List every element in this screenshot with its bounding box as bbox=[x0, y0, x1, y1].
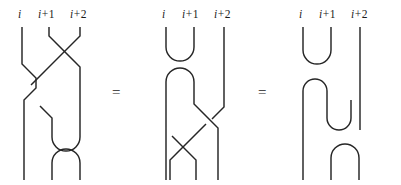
equals-sign-2: = bbox=[258, 85, 266, 100]
right-diagram bbox=[0, 0, 401, 185]
left-label-i-plus-1: i+1 bbox=[38, 9, 54, 21]
right-label-i-plus-1: i+1 bbox=[319, 9, 335, 21]
left-label-i: i bbox=[18, 9, 21, 21]
middle-label-i-plus-1: i+1 bbox=[182, 9, 198, 21]
braid-relation-figure: i i+1 i+2 i i+1 i+2 i i+1 i+2 = = bbox=[0, 0, 401, 185]
right-diagram-s-curve bbox=[303, 79, 351, 180]
middle-label-i: i bbox=[162, 9, 165, 21]
right-diagram-top-cup bbox=[303, 27, 331, 64]
left-label-i-plus-2: i+2 bbox=[70, 9, 86, 21]
middle-label-i-plus-2: i+2 bbox=[214, 9, 230, 21]
equals-sign-1: = bbox=[112, 85, 120, 100]
right-label-i: i bbox=[299, 9, 302, 21]
right-diagram-cap bbox=[331, 144, 359, 180]
right-label-i-plus-2: i+2 bbox=[351, 9, 367, 21]
